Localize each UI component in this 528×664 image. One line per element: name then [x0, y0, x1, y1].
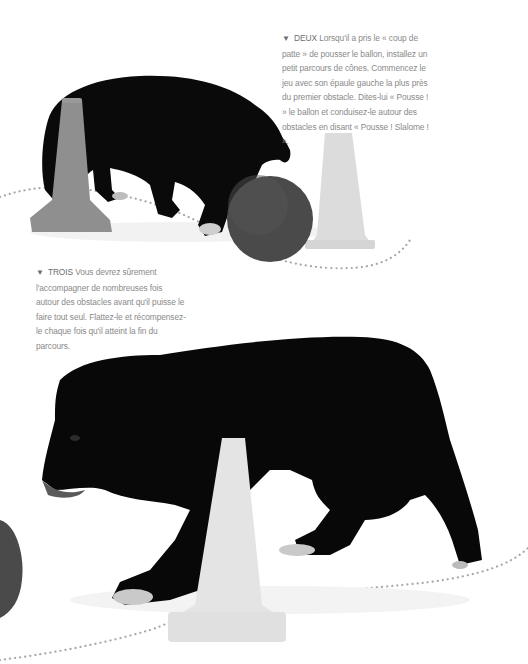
- step-label: TROIS: [48, 267, 73, 277]
- bottom-illustration: [0, 337, 482, 642]
- caption-step-trois: ▼ TROIS Vous devrez sûrement l'accompagn…: [36, 265, 186, 354]
- step-text: Vous devrez sûrement l'accompagner de no…: [36, 267, 186, 351]
- step-label: DEUX: [294, 33, 317, 43]
- ball-partial-icon: [0, 520, 23, 618]
- dog-bottom-silhouette: [42, 337, 482, 605]
- triangle-down-icon: ▼: [282, 34, 290, 43]
- triangle-down-icon: ▼: [36, 268, 44, 277]
- step-text: Lorsqu'il a pris le « coup de patte » de…: [282, 33, 429, 146]
- caption-step-deux: ▼ DEUX Lorsqu'il a pris le « coup de pat…: [282, 31, 432, 149]
